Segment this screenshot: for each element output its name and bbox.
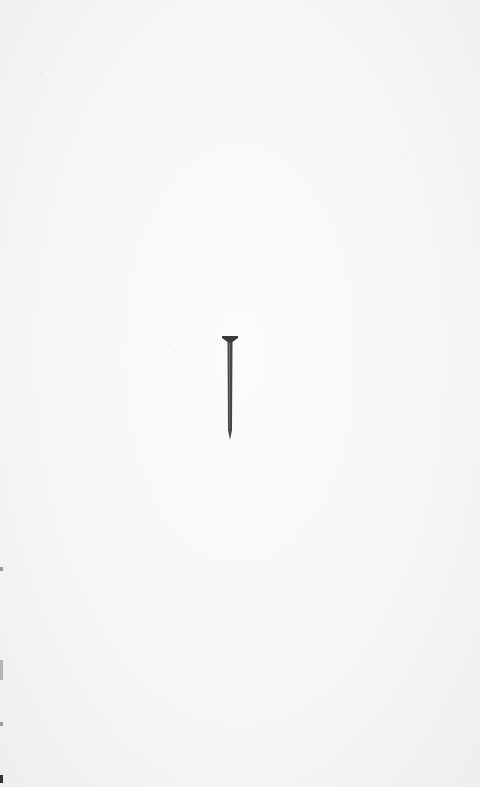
- paper-speck: [355, 718, 356, 719]
- book-page: [0, 0, 480, 787]
- paper-speck: [250, 615, 251, 616]
- paper-speck: [194, 53, 195, 54]
- binding-mark: [0, 660, 3, 680]
- paper-speck: [382, 188, 383, 189]
- paper-speck: [115, 145, 116, 146]
- nail-figure: [221, 334, 239, 442]
- binding-mark: [0, 775, 3, 783]
- paper-speck: [298, 284, 299, 285]
- paper-speck: [175, 351, 176, 352]
- nail-icon: [221, 334, 239, 442]
- binding-mark: [0, 567, 3, 571]
- paper-speck: [405, 155, 406, 156]
- binding-mark: [0, 722, 3, 726]
- paper-speck: [40, 72, 41, 73]
